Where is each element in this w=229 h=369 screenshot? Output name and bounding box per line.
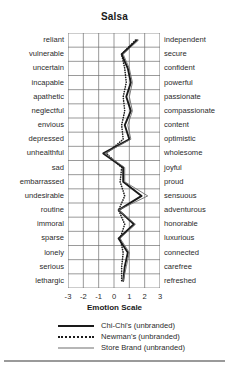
row-label-left: unhealthful: [27, 149, 64, 157]
x-tick-label: -3: [61, 292, 75, 301]
legend-item-label: Store Brand (unbranded): [101, 343, 185, 352]
legend-swatch-dotted-icon: [58, 333, 94, 341]
legend-swatch-solid-thin-icon: [58, 344, 94, 352]
row-label-left: uncertain: [33, 64, 64, 72]
row-label-left: reliant: [43, 36, 64, 44]
x-tick-label: 2: [138, 292, 152, 301]
row-label-left: embarrassed: [20, 178, 64, 186]
x-axis-title: Emotion Scale: [0, 303, 229, 312]
row-label-right: connected: [164, 249, 199, 257]
row-label-left: depressed: [29, 135, 64, 143]
row-label-right: refreshed: [164, 277, 196, 285]
row-label-left: apathetic: [33, 93, 64, 101]
row-label-left: serious: [40, 263, 64, 271]
row-label-right: joyful: [164, 164, 182, 172]
row-label-right: content: [164, 121, 189, 129]
x-tick-label: 0: [107, 292, 121, 301]
row-label-right: wholesome: [164, 149, 202, 157]
row-label-left: incapable: [31, 79, 64, 87]
plot-area: [68, 33, 160, 288]
x-tick-label: -2: [76, 292, 90, 301]
row-label-left: immoral: [37, 220, 64, 228]
x-tick-label: 1: [122, 292, 136, 301]
legend-item: Newman's (unbranded): [0, 331, 229, 342]
row-label-left: sparse: [41, 234, 64, 242]
row-label-right: honorable: [164, 220, 198, 228]
row-label-right: carefree: [164, 263, 192, 271]
row-label-right: secure: [164, 50, 187, 58]
legend-item-label: Chi-Chi's (unbranded): [101, 321, 175, 330]
row-label-right: passionate: [164, 93, 201, 101]
chart-legend: Chi-Chi's (unbranded) Newman's (unbrande…: [0, 320, 229, 353]
series-line: [103, 40, 141, 281]
row-label-left: vulnerable: [29, 50, 64, 58]
x-tick-label: -1: [92, 292, 106, 301]
row-label-left: undesirable: [25, 192, 64, 200]
row-label-right: powerful: [164, 79, 193, 87]
chart-series-lines: [68, 33, 160, 288]
row-label-left: sad: [52, 164, 64, 172]
row-label-left: envious: [38, 121, 64, 129]
legend-swatch-solid-thick-icon: [58, 322, 94, 330]
row-label-right: optimistic: [164, 135, 196, 143]
salsa-profile-chart: Salsa reliantvulnerableuncertainincapabl…: [0, 0, 229, 369]
legend-item-label: Newman's (unbranded): [101, 332, 180, 341]
series-line: [105, 40, 148, 281]
legend-item: Store Brand (unbranded): [0, 342, 229, 353]
legend-item: Chi-Chi's (unbranded): [0, 320, 229, 331]
row-label-right: independent: [164, 36, 206, 44]
row-label-right: compassionate: [164, 107, 215, 115]
row-label-left: lethargic: [35, 277, 64, 285]
row-label-right: adventurous: [164, 206, 206, 214]
row-label-left: lonely: [44, 249, 64, 257]
row-label-right: sensuous: [164, 192, 197, 200]
x-axis-tick-labels: -3-2-10123: [0, 292, 229, 303]
x-tick-label: 3: [153, 292, 167, 301]
row-label-right: luxurious: [164, 234, 194, 242]
row-label-left: routine: [41, 206, 64, 214]
chart-title: Salsa: [0, 11, 229, 22]
row-label-right: confident: [164, 64, 195, 72]
row-label-left: neglectful: [31, 107, 64, 115]
row-label-right: proud: [164, 178, 183, 186]
footer-divider: [4, 360, 225, 362]
